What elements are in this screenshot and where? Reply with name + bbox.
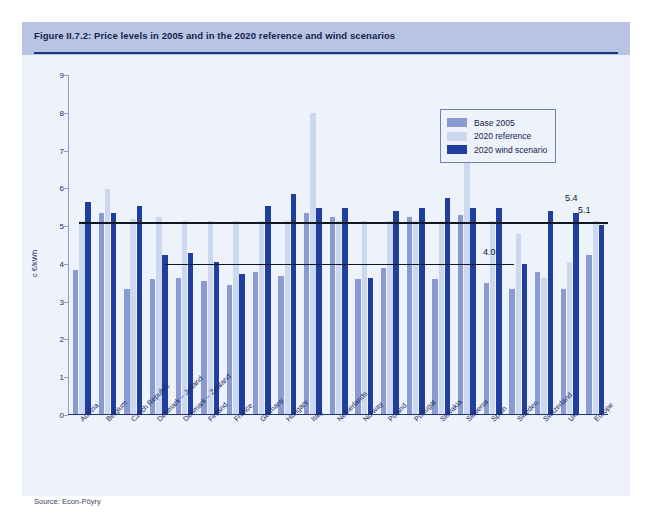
bar-2[interactable] [548, 211, 553, 413]
bar-0[interactable] [124, 289, 129, 414]
bar-2[interactable] [316, 208, 321, 414]
bar-1[interactable] [593, 221, 598, 414]
bar-1[interactable] [387, 221, 392, 414]
bar-0[interactable] [330, 217, 335, 413]
bar-group[interactable] [223, 75, 249, 414]
y-tick-mark [64, 264, 68, 265]
bar-group[interactable] [351, 75, 377, 414]
bar-group[interactable] [146, 75, 172, 414]
bar-group[interactable] [172, 75, 198, 414]
y-tick-mark [64, 188, 68, 189]
bar-0[interactable] [381, 268, 386, 413]
bar-group[interactable] [120, 75, 146, 414]
bar-2[interactable] [342, 208, 347, 414]
bar-2[interactable] [445, 198, 450, 413]
legend-swatch [447, 145, 467, 154]
bar-1[interactable] [541, 278, 546, 414]
bar-group[interactable] [557, 75, 583, 414]
y-axis-label: c €/kWh [30, 250, 39, 277]
bar-0[interactable] [407, 217, 412, 413]
bar-2[interactable] [393, 211, 398, 413]
bar-0[interactable] [458, 215, 463, 413]
reference-line-label: 4.0 [483, 247, 496, 257]
bar-0[interactable] [432, 279, 437, 413]
y-tick-label: 6 [44, 184, 64, 193]
y-tick-mark [64, 377, 68, 378]
bar-2[interactable] [368, 278, 373, 414]
y-tick-label: 8 [44, 108, 64, 117]
bar-2[interactable] [419, 208, 424, 414]
bar-1[interactable] [516, 234, 521, 413]
bar-1[interactable] [79, 221, 84, 414]
y-tick-mark [64, 302, 68, 303]
bar-group[interactable] [326, 75, 352, 414]
bar-group[interactable] [249, 75, 275, 414]
y-tick-label: 5 [44, 222, 64, 231]
y-tick-label: 7 [44, 146, 64, 155]
legend-label: Base 2005 [474, 118, 515, 128]
bar-0[interactable] [535, 272, 540, 414]
bar-0[interactable] [484, 283, 489, 413]
y-tick-label: 9 [44, 71, 64, 80]
bar-group[interactable] [300, 75, 326, 414]
figure-title: Figure II.7.2: Price levels in 2005 and … [34, 30, 395, 41]
y-tick-label: 1 [44, 373, 64, 382]
bar-2[interactable] [85, 202, 90, 414]
bar-0[interactable] [99, 213, 104, 413]
reference-line [79, 222, 608, 224]
bar-1[interactable] [439, 221, 444, 414]
legend-swatch [447, 118, 467, 127]
legend-item[interactable]: 2020 wind scenario [447, 144, 547, 156]
figure-page: Figure II.7.2: Price levels in 2005 and … [0, 0, 652, 518]
legend-item[interactable]: 2020 reference [447, 130, 547, 142]
bar-group[interactable] [197, 75, 223, 414]
bar-2[interactable] [599, 225, 604, 414]
plot-area: c €/kWh 0123456789 5.45.14.0 AustriaBelg… [22, 55, 630, 496]
y-tick-label: 2 [44, 335, 64, 344]
bar-2[interactable] [522, 264, 527, 413]
reference-line-label: 5.4 [565, 193, 578, 203]
bar-group[interactable] [274, 75, 300, 414]
bar-0[interactable] [278, 276, 283, 414]
y-tick-mark [64, 75, 68, 76]
bar-1[interactable] [336, 221, 341, 414]
bar-0[interactable] [73, 270, 78, 414]
bar-group[interactable] [95, 75, 121, 414]
bar-2[interactable] [111, 213, 116, 413]
source-note: Source: Econ-Pöyry [34, 497, 101, 506]
bar-1[interactable] [413, 221, 418, 414]
bar-2[interactable] [496, 208, 501, 414]
chart-legend: Base 20052020 reference2020 wind scenari… [440, 109, 556, 163]
legend-item[interactable]: Base 2005 [447, 117, 547, 129]
y-tick-mark [64, 113, 68, 114]
bar-1[interactable] [130, 219, 135, 414]
bar-1[interactable] [464, 132, 469, 413]
x-axis-labels: AustriaBelgiumCzech RepublicDenmark – Ju… [69, 417, 609, 487]
bar-2[interactable] [291, 194, 296, 413]
y-tick-mark [64, 415, 68, 416]
bar-0[interactable] [227, 285, 232, 413]
bar-2[interactable] [470, 208, 475, 414]
bar-group[interactable] [403, 75, 429, 414]
bar-2[interactable] [137, 206, 142, 414]
y-tick-label: 0 [44, 411, 64, 420]
bar-group[interactable] [69, 75, 95, 414]
y-tick-mark [64, 226, 68, 227]
y-tick-label: 4 [44, 259, 64, 268]
bar-2[interactable] [573, 213, 578, 413]
bar-2[interactable] [239, 274, 244, 414]
bar-0[interactable] [509, 289, 514, 414]
bar-group[interactable] [582, 75, 608, 414]
bar-1[interactable] [233, 221, 238, 414]
bar-1[interactable] [259, 221, 264, 414]
legend-label: 2020 wind scenario [474, 145, 547, 155]
bar-0[interactable] [304, 213, 309, 413]
header-divider [34, 52, 618, 54]
bar-2[interactable] [265, 206, 270, 414]
bar-1[interactable] [362, 221, 367, 414]
bar-group[interactable] [377, 75, 403, 414]
legend-swatch [447, 132, 467, 141]
bar-1[interactable] [285, 221, 290, 414]
bar-0[interactable] [586, 255, 591, 414]
bar-0[interactable] [253, 272, 258, 414]
